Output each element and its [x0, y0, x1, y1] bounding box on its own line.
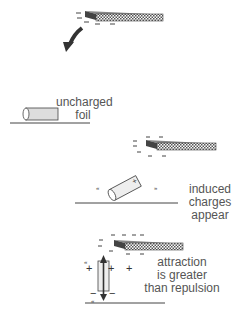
svg-text:−: − — [109, 287, 115, 299]
svg-text:«: « — [96, 185, 100, 191]
charged-rod-top — [76, 11, 163, 24]
label-uncharged-foil: uncharged foil — [56, 96, 110, 122]
foil-induced-charges: + « » — [75, 176, 178, 203]
charged-rod-bottom — [98, 235, 183, 254]
attraction-arrow-icon — [100, 255, 107, 263]
charged-rod-middle — [133, 137, 216, 156]
label-induced-charges: induced charges appear — [182, 183, 238, 222]
label-line: than repulsion — [138, 282, 226, 295]
svg-text:+: + — [126, 262, 132, 274]
svg-text:»: » — [154, 185, 158, 191]
label-line: foil — [56, 109, 110, 122]
label-attraction: attraction is greater than repulsion — [138, 256, 226, 295]
svg-text:+: + — [108, 262, 114, 274]
motion-arrow-icon — [63, 28, 82, 52]
label-line: appear — [182, 209, 238, 222]
repulsion-arrow-icon — [100, 294, 107, 301]
